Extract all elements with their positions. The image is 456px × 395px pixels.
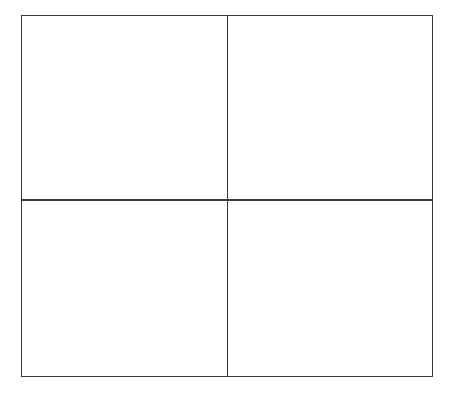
quadrant-cell-bottom-left-label [22,201,227,375]
quadrant-cell-top-left-label [22,16,227,199]
quadrant-cell-top-right-label [228,16,430,199]
page-canvas [0,0,456,395]
quadrant-cell-top-right[interactable] [228,16,430,199]
quadrant-cell-bottom-right-label [228,201,430,375]
quadrant-grid [21,15,433,377]
quadrant-cell-bottom-right[interactable] [228,201,430,375]
quadrant-cell-top-left[interactable] [22,16,227,199]
quadrant-cell-bottom-left[interactable] [22,201,227,375]
